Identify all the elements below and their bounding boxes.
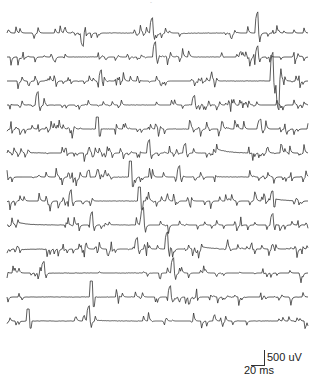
voltage-trace <box>7 232 308 258</box>
scale-bar-voltage-label: 500 uV <box>267 351 302 363</box>
voltage-trace <box>7 92 308 112</box>
voltage-trace <box>7 306 308 329</box>
voltage-trace <box>7 187 308 211</box>
voltage-trace <box>7 117 308 138</box>
scale-bar-time-label: 20 ms <box>244 364 274 376</box>
voltage-trace <box>7 281 308 307</box>
voltage-trace <box>7 42 308 66</box>
voltage-trace <box>7 12 308 47</box>
voltage-trace <box>7 161 308 187</box>
voltage-trace <box>7 140 308 162</box>
voltage-trace <box>7 258 308 283</box>
voltage-trace <box>7 52 308 110</box>
voltage-traces-plot <box>0 0 317 376</box>
trace-group <box>7 12 308 329</box>
voltage-trace <box>7 208 308 234</box>
